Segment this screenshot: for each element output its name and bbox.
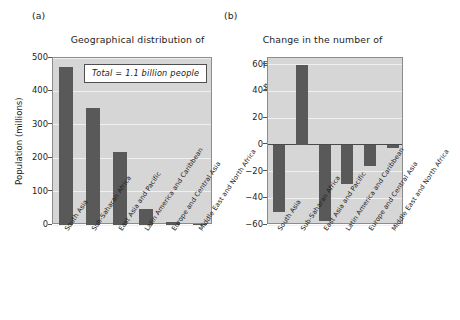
y-tick-label: 200	[26, 152, 48, 162]
gridline	[53, 191, 211, 192]
panel-a-title-line-1: Geographical distribution of	[71, 34, 205, 45]
panel-b-tag: (b)	[224, 10, 238, 22]
gridline	[53, 58, 211, 59]
bar	[296, 65, 308, 145]
gridline	[268, 198, 402, 199]
y-tick-label: 0	[241, 139, 263, 149]
y-tick-mark	[48, 90, 52, 91]
y-tick-mark	[263, 197, 267, 198]
y-axis-label-a: Population (millions)	[14, 97, 24, 185]
gridline	[53, 124, 211, 125]
panel-b-title-line-1: Change in the number of	[263, 34, 383, 45]
y-tick-mark	[263, 90, 267, 91]
y-tick-label: −40	[241, 192, 263, 202]
y-tick-mark	[263, 117, 267, 118]
gridline	[53, 225, 211, 226]
y-tick-mark	[263, 143, 267, 144]
y-tick-label: 500	[26, 52, 48, 62]
bar	[273, 145, 285, 212]
bar	[341, 145, 353, 184]
panel-b: (b) Change in the number of people livin…	[230, 0, 460, 320]
y-tick-label: 300	[26, 119, 48, 129]
gridline	[268, 64, 402, 65]
y-tick-mark	[48, 123, 52, 124]
y-tick-mark	[263, 170, 267, 171]
y-tick-mark	[48, 224, 52, 225]
gridline	[53, 158, 211, 159]
y-tick-label: −60	[241, 219, 263, 229]
bar	[86, 108, 100, 225]
y-tick-label: −20	[241, 166, 263, 176]
bar	[59, 67, 73, 225]
y-tick-label: 100	[26, 186, 48, 196]
zero-line	[268, 144, 402, 145]
total-annotation: Total = 1.1 billion people	[84, 64, 207, 83]
bar	[364, 145, 376, 166]
y-tick-mark	[48, 157, 52, 158]
gridline	[268, 118, 402, 119]
y-tick-mark	[263, 224, 267, 225]
y-tick-label: 40	[241, 85, 263, 95]
bar	[387, 145, 399, 148]
gridline	[268, 91, 402, 92]
y-tick-mark	[48, 57, 52, 58]
y-tick-label: 20	[241, 112, 263, 122]
gridline	[268, 225, 402, 226]
figure-container: (a) Geographical distribution of populat…	[0, 0, 460, 320]
panel-a: (a) Geographical distribution of populat…	[0, 0, 230, 320]
y-tick-mark	[263, 63, 267, 64]
y-tick-label: 400	[26, 85, 48, 95]
gridline	[53, 91, 211, 92]
y-tick-label: 60	[241, 59, 263, 69]
panel-a-tag: (a)	[32, 10, 45, 22]
y-tick-mark	[48, 190, 52, 191]
plot-area-b	[267, 57, 403, 224]
y-tick-label: 0	[26, 219, 48, 229]
